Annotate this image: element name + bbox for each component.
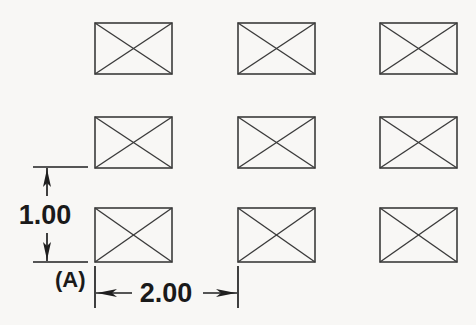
feature-row3-col2[interactable] <box>238 208 315 262</box>
vertical-dimension-1-00[interactable]: 1.00 <box>19 167 88 262</box>
datum-label-a: (A) <box>55 267 86 292</box>
horizontal-dimension-value: 2.00 <box>140 278 193 308</box>
horizontal-dimension-2-00[interactable]: 2.00 <box>95 266 238 308</box>
feature-row1-col2[interactable] <box>238 23 315 74</box>
feature-row2-col3[interactable] <box>380 117 457 168</box>
vertical-dimension-value: 1.00 <box>19 200 72 230</box>
feature-row1-col3[interactable] <box>380 23 457 74</box>
feature-row1-col1[interactable] <box>95 23 172 74</box>
feature-row3-col1[interactable] <box>95 208 172 262</box>
feature-row2-col1[interactable] <box>95 117 172 168</box>
feature-row2-col2[interactable] <box>238 117 315 168</box>
technical-drawing-svg: 1.00 (A) 2.00 <box>0 0 476 325</box>
feature-row3-col3[interactable] <box>380 208 457 262</box>
pattern-group <box>95 23 457 262</box>
drawing-canvas: 1.00 (A) 2.00 <box>0 0 476 325</box>
